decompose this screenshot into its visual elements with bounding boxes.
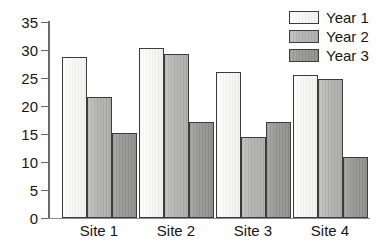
bar-group-site-1 bbox=[62, 22, 136, 218]
legend-label-year-1: Year 1 bbox=[326, 10, 369, 25]
legend-label-year-3: Year 3 bbox=[326, 48, 369, 63]
legend-item-year-1: Year 1 bbox=[289, 8, 381, 26]
y-tick-label-5: 5 bbox=[0, 183, 38, 198]
legend-swatch-year-2 bbox=[289, 30, 319, 43]
legend-label-year-2: Year 2 bbox=[326, 29, 369, 44]
bar-site2-year1 bbox=[139, 48, 164, 218]
bar-site4-year1 bbox=[293, 75, 318, 218]
y-tick-label-30: 30 bbox=[0, 43, 38, 58]
bar-site2-year2 bbox=[164, 54, 189, 218]
bar-chart: 35 30 25 20 15 10 5 0 bbox=[0, 0, 382, 249]
y-tick-label-20: 20 bbox=[0, 99, 38, 114]
bar-site3-year3 bbox=[266, 122, 291, 218]
bar-site2-year3 bbox=[189, 122, 214, 218]
y-axis-tick bbox=[41, 78, 48, 80]
bar-site4-year2 bbox=[318, 79, 343, 218]
legend-item-year-3: Year 3 bbox=[289, 46, 381, 64]
legend-swatch-year-1 bbox=[289, 11, 319, 24]
bar-group-site-2 bbox=[139, 22, 213, 218]
bar-site3-year2 bbox=[241, 137, 266, 218]
bar-site4-year3 bbox=[343, 157, 368, 218]
bar-site3-year1 bbox=[216, 72, 241, 218]
y-axis-tick-labels: 35 30 25 20 15 10 5 0 bbox=[0, 0, 38, 249]
bar-site1-year3 bbox=[112, 133, 137, 218]
bar-site1-year2 bbox=[87, 97, 112, 219]
y-tick-label-15: 15 bbox=[0, 127, 38, 142]
y-tick-label-25: 25 bbox=[0, 71, 38, 86]
legend-swatch-year-3 bbox=[289, 49, 319, 62]
y-tick-label-10: 10 bbox=[0, 155, 38, 170]
y-axis-tick bbox=[41, 50, 48, 52]
bar-site1-year1 bbox=[62, 57, 87, 218]
y-tick-label-35: 35 bbox=[0, 15, 38, 30]
y-tick-label-0: 0 bbox=[0, 211, 38, 226]
y-axis-tick bbox=[41, 162, 48, 164]
legend: Year 1 Year 2 Year 3 bbox=[289, 8, 381, 65]
y-axis-tick bbox=[41, 22, 48, 24]
y-axis-tick bbox=[41, 134, 48, 136]
bar-group-site-3 bbox=[216, 22, 290, 218]
x-tick-label-site-4: Site 4 bbox=[285, 222, 375, 239]
y-axis-tick bbox=[41, 106, 48, 108]
y-axis-tick bbox=[41, 218, 48, 220]
y-axis-tick bbox=[41, 190, 48, 192]
legend-item-year-2: Year 2 bbox=[289, 27, 381, 45]
